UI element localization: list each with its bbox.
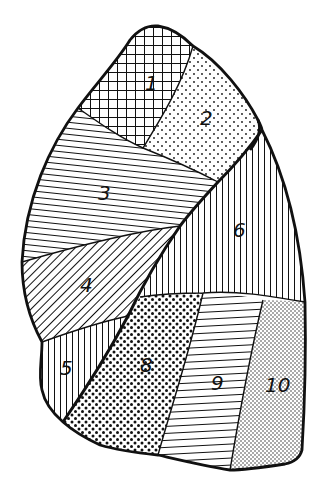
label-10: 10 xyxy=(265,373,290,397)
label-2: 2 xyxy=(200,106,213,130)
lung-segment-diagram: 1 2 3 4 5 6 8 9 10 xyxy=(0,0,322,492)
label-3: 3 xyxy=(98,181,111,205)
label-4: 4 xyxy=(80,273,93,297)
label-6: 6 xyxy=(233,218,246,242)
label-5: 5 xyxy=(60,356,73,380)
label-9: 9 xyxy=(211,371,224,395)
label-1: 1 xyxy=(145,71,158,95)
label-8: 8 xyxy=(140,353,153,377)
